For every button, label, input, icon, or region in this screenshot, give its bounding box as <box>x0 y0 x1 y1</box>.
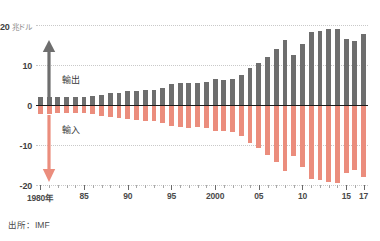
export-bar <box>55 97 60 105</box>
import-bar <box>265 105 270 155</box>
import-bar <box>64 105 69 113</box>
export-bar <box>186 83 191 105</box>
x-tick-2017 <box>364 185 365 190</box>
export-bar <box>248 68 253 105</box>
x-tick-1999 <box>206 185 207 188</box>
plot-area: 20兆ドル 10 0 -10 -20 輸出 輸入 <box>36 25 368 185</box>
import-bar <box>99 105 104 116</box>
export-bar <box>283 40 288 105</box>
x-tick-2000 <box>215 185 216 190</box>
x-tick-2004 <box>250 185 251 188</box>
export-bar <box>108 93 113 105</box>
export-bar <box>361 34 366 105</box>
x-tick-1995 <box>171 185 172 190</box>
export-bar <box>195 83 200 105</box>
import-bar <box>326 105 331 182</box>
export-bar <box>169 84 174 105</box>
import-bar <box>117 105 122 118</box>
import-bar <box>352 105 357 170</box>
import-bar <box>82 105 87 113</box>
x-axis-label-2010: 10 <box>298 191 307 201</box>
y-axis-label-minus20: -20 <box>20 181 32 191</box>
export-bar <box>213 79 218 105</box>
x-tick-1998 <box>198 185 199 188</box>
import-bar <box>309 105 314 179</box>
export-bar <box>291 55 296 105</box>
trade-bar-chart: 20兆ドル 10 0 -10 -20 輸出 輸入 1980年8590952000… <box>0 0 380 241</box>
import-bar <box>90 105 95 114</box>
y-axis-label-0: 0 <box>27 101 32 111</box>
import-bar <box>108 105 113 117</box>
x-tick-2013 <box>329 185 330 188</box>
import-bar <box>143 105 148 121</box>
x-tick-1992 <box>145 185 146 188</box>
import-bar <box>361 105 366 177</box>
x-tick-2002 <box>233 185 234 188</box>
export-arrow-icon <box>42 39 56 105</box>
x-tick-2009 <box>294 185 295 188</box>
import-bar <box>230 105 235 132</box>
x-axis: 1980年859095200005101517 <box>36 185 368 207</box>
export-bar <box>90 96 95 105</box>
import-bar <box>195 105 200 127</box>
export-bar <box>300 44 305 105</box>
x-axis-label-2017: 17 <box>359 191 368 201</box>
x-tick-2008 <box>285 185 286 188</box>
x-tick-2006 <box>268 185 269 188</box>
import-bar <box>160 105 165 123</box>
x-tick-1987 <box>102 185 103 188</box>
x-axis-label-1995: 95 <box>167 191 176 201</box>
export-bar <box>335 29 340 105</box>
x-axis-label-1990: 90 <box>123 191 132 201</box>
export-bar <box>99 95 104 105</box>
export-bar <box>178 83 183 105</box>
export-bar <box>82 97 87 105</box>
import-bar <box>256 105 261 148</box>
import-bar <box>291 105 296 156</box>
x-tick-1981 <box>49 185 50 188</box>
export-bar <box>344 39 349 105</box>
export-bar <box>221 80 226 105</box>
source-note: 出所：IMF <box>8 218 50 230</box>
export-annotation-label: 輸出 <box>62 73 80 86</box>
x-tick-1984 <box>75 185 76 188</box>
import-bar <box>204 105 209 128</box>
export-bar <box>134 91 139 105</box>
x-tick-2001 <box>224 185 225 188</box>
export-bar <box>326 29 331 105</box>
export-bar <box>143 90 148 105</box>
import-bar <box>221 105 226 131</box>
import-bar <box>213 105 218 131</box>
import-annotation-label: 輸入 <box>62 123 80 136</box>
import-bar <box>239 105 244 136</box>
x-tick-1982 <box>58 185 59 188</box>
x-tick-2007 <box>276 185 277 188</box>
export-bar <box>265 57 270 105</box>
x-tick-1988 <box>110 185 111 188</box>
export-bar <box>318 31 323 105</box>
import-bar <box>248 105 253 143</box>
gridline-zero: 0 <box>36 105 368 106</box>
import-bar <box>134 105 139 120</box>
import-bar <box>125 105 130 119</box>
x-tick-1990 <box>128 185 129 190</box>
y-axis-label-minus10: -10 <box>20 141 32 151</box>
x-tick-1986 <box>93 185 94 188</box>
x-axis-label-1980: 1980年 <box>27 191 54 203</box>
x-tick-2014 <box>337 185 338 188</box>
import-arrow-icon <box>42 113 56 183</box>
export-bar <box>64 97 69 105</box>
x-tick-1983 <box>67 185 68 188</box>
x-tick-2011 <box>311 185 312 188</box>
export-bar <box>352 41 357 105</box>
x-tick-2016 <box>355 185 356 188</box>
x-tick-1993 <box>154 185 155 188</box>
export-bar <box>160 88 165 105</box>
export-bar <box>125 91 130 105</box>
y-axis-label-20: 20兆ドル <box>0 21 32 32</box>
y-axis-label-10: 10 <box>22 61 32 71</box>
x-axis-label-2005: 05 <box>254 191 263 201</box>
x-tick-2003 <box>241 185 242 188</box>
import-bar <box>283 105 288 171</box>
x-axis-label-1985: 85 <box>80 191 89 201</box>
